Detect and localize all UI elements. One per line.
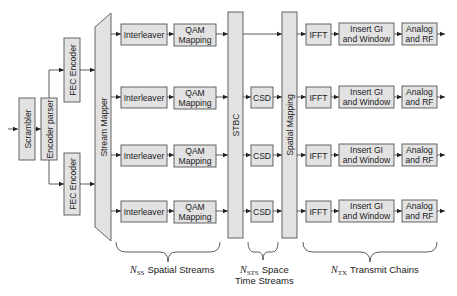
scrambler-block: Scrambler xyxy=(19,98,35,160)
encoder-parser-label: Encoder parser xyxy=(45,99,55,158)
fec-encoder-bottom-block: FEC Encoder xyxy=(64,153,80,215)
csd-label: CSD xyxy=(253,207,271,217)
analog-label-1: Analog xyxy=(406,201,433,211)
qam-label-1: QAM xyxy=(185,202,205,212)
label-transmit-chains: NTXTransmit Chains xyxy=(330,264,419,277)
interleaver-label: Interleaver xyxy=(124,151,165,161)
qam-label-2: Mapping xyxy=(179,156,212,166)
fec-encoder-label: FEC Encoder xyxy=(68,44,78,96)
brace-spatial-streams xyxy=(116,242,220,262)
analog-label-2: and RF xyxy=(405,155,433,165)
csd-row-4: CSD xyxy=(243,201,282,222)
qam-label-1: QAM xyxy=(185,88,205,98)
qam-label-2: Mapping xyxy=(179,212,212,222)
transmit-chain-4: IFFT Insert GI and Window Analog and RF xyxy=(297,200,445,222)
stream-mapper-label: Stream Mapper xyxy=(99,97,109,156)
ifft-label: IFFT xyxy=(309,30,328,40)
spatial-stream-row-3: Interleaver QAM Mapping xyxy=(111,145,228,167)
brace-space-time-streams xyxy=(248,242,278,260)
interleaver-label: Interleaver xyxy=(124,207,165,217)
qam-label-1: QAM xyxy=(185,25,205,35)
stbc-label: STBC xyxy=(231,114,241,137)
branch-arrow-bottom xyxy=(49,160,64,184)
ifft-label: IFFT xyxy=(309,151,328,161)
interleaver-label: Interleaver xyxy=(124,93,165,103)
ifft-label: IFFT xyxy=(309,93,328,103)
label-spatial-streams: NSSSpatial Streams xyxy=(129,264,215,277)
transmitter-block-diagram: Scrambler Encoder parser FEC Encoder FEC… xyxy=(0,0,457,296)
encoder-parser-block: Encoder parser xyxy=(41,98,57,160)
insert-gi-label-1: Insert GI xyxy=(350,24,383,34)
csd-row-3: CSD xyxy=(243,145,282,166)
ifft-label: IFFT xyxy=(309,207,328,217)
stream-mapper-block: Stream Mapper xyxy=(95,13,111,241)
insert-gi-label-2: and Window xyxy=(343,211,391,221)
transmit-chain-2: IFFT Insert GI and Window Analog and RF xyxy=(297,86,445,108)
transmit-chain-3: IFFT Insert GI and Window Analog and RF xyxy=(297,144,445,166)
analog-label-2: and RF xyxy=(405,97,433,107)
spatial-stream-row-1: Interleaver QAM Mapping xyxy=(111,24,228,46)
spatial-mapping-label: Spatial Mapping xyxy=(285,94,295,156)
insert-gi-label-2: and Window xyxy=(343,34,391,44)
analog-label-1: Analog xyxy=(406,87,433,97)
svg-text:Time Streams: Time Streams xyxy=(235,275,294,286)
analog-label-1: Analog xyxy=(406,24,433,34)
svg-text:NSSSpatial Streams: NSSSpatial Streams xyxy=(129,264,215,277)
insert-gi-label-2: and Window xyxy=(343,155,391,165)
insert-gi-label-1: Insert GI xyxy=(350,87,383,97)
spatial-stream-row-4: Interleaver QAM Mapping xyxy=(111,201,228,223)
insert-gi-label-1: Insert GI xyxy=(350,145,383,155)
analog-label-2: and RF xyxy=(405,34,433,44)
label-space-time-streams: NSTSSpace Time Streams xyxy=(235,264,294,286)
branch-arrow-top xyxy=(49,70,64,98)
spatial-stream-row-2: Interleaver QAM Mapping xyxy=(111,87,228,109)
insert-gi-label-1: Insert GI xyxy=(350,201,383,211)
csd-row-2: CSD xyxy=(243,87,282,108)
qam-label-2: Mapping xyxy=(179,98,212,108)
interleaver-label: Interleaver xyxy=(124,30,165,40)
stbc-block: STBC xyxy=(228,12,243,238)
fec-encoder-label: FEC Encoder xyxy=(68,158,78,210)
fec-encoder-top-block: FEC Encoder xyxy=(64,38,80,102)
analog-label-1: Analog xyxy=(406,145,433,155)
scrambler-label: Scrambler xyxy=(23,109,33,148)
qam-label-1: QAM xyxy=(185,146,205,156)
qam-label-2: Mapping xyxy=(179,35,212,45)
spatial-mapping-block: Spatial Mapping xyxy=(282,12,297,238)
csd-label: CSD xyxy=(253,151,271,161)
svg-text:NTXTransmit Chains: NTXTransmit Chains xyxy=(330,264,419,277)
brace-transmit-chains xyxy=(303,242,437,262)
csd-label: CSD xyxy=(253,93,271,103)
transmit-chain-1: IFFT Insert GI and Window Analog and RF xyxy=(297,23,445,45)
analog-label-2: and RF xyxy=(405,211,433,221)
insert-gi-label-2: and Window xyxy=(343,97,391,107)
